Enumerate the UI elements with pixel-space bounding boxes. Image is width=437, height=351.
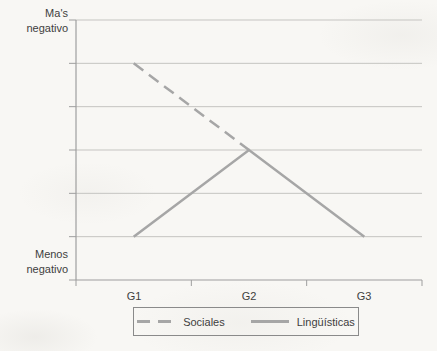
legend-label-sociales: Sociales [183,316,225,328]
y-axis-label-bottom-line1: Menos [35,248,68,260]
x-axis-label-g3: G3 [324,290,404,302]
x-axis-label-g1: G1 [94,290,174,302]
scanned-line-chart: Ma's negativo Menos negativo G1 G2 G3 So… [0,0,437,351]
y-axis-label-bottom: Menos negativo [0,247,68,277]
legend: Sociales Lingüísticas [133,307,359,336]
solid-line-swatch [251,320,289,323]
x-axis-label-g2: G2 [209,290,289,302]
legend-item-sociales: Sociales [137,316,225,328]
y-axis-label-bottom-line2: negativo [26,263,68,275]
legend-label-linguisticas: Lingüísticas [297,316,355,328]
dashed-line-swatch [137,320,175,323]
legend-item-linguisticas: Lingüísticas [251,316,355,328]
